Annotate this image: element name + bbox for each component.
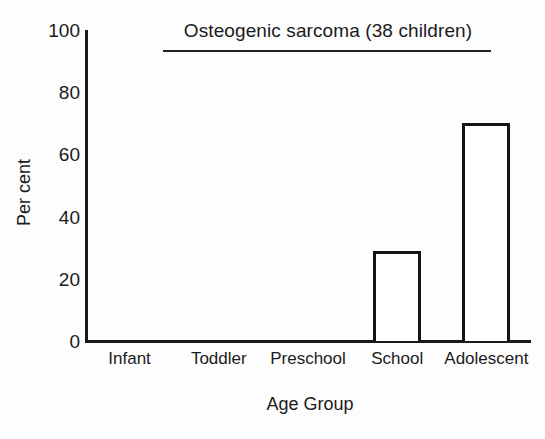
x-tick-label: Adolescent [442,350,531,369]
y-tick-label: 0 [34,332,80,351]
x-tick-label: School [353,350,442,369]
y-tick-label: 40 [34,208,80,227]
y-tick-label: 20 [34,270,80,289]
x-tick-label: Preschool [263,350,352,369]
x-tick-label: Infant [85,350,174,369]
bar-school [373,251,421,341]
y-tick-label: 80 [34,83,80,102]
plot-area [85,30,531,341]
bar-adolescent [462,123,510,341]
y-tick-label: 60 [34,145,80,164]
y-axis-title: Per cent [14,153,35,233]
y-axis-tick-labels: 020406080100 [30,0,80,439]
bar-chart-figure: Osteogenic sarcoma (38 children) 0204060… [0,0,545,439]
x-axis-tick-labels: InfantToddlerPreschoolSchoolAdolescent [85,350,531,376]
x-tick-label: Toddler [174,350,263,369]
y-tick-label: 100 [34,21,80,40]
x-axis-title: Age Group [210,394,410,415]
